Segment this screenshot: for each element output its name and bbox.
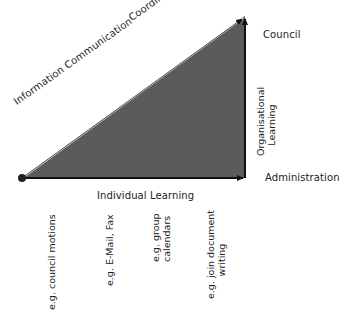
example-label-email-fax: e.g. E-Mail, Fax: [104, 222, 115, 286]
axis-label-organisational-line1: Organisational: [255, 94, 266, 156]
example-line: e.g. E-Mail, Fax: [104, 222, 115, 286]
axis-label-organisational-learning: Organisational Learning: [255, 94, 277, 156]
learning-triangle-diagram: Information Communication Coordination/C…: [0, 0, 345, 320]
example-line: e.g. group: [150, 222, 161, 262]
level-label-administration: Administration: [265, 172, 340, 183]
axis-label-organisational-line2: Learning: [266, 94, 277, 156]
example-label-group-calendars: e.g. group calendars: [150, 222, 172, 262]
origin-dot-icon: [18, 174, 26, 182]
example-line: calendars: [161, 222, 172, 262]
example-line: e.g. join document: [205, 221, 216, 299]
example-line: e.g. council motions: [46, 222, 57, 310]
axis-label-individual-learning: Individual Learning: [97, 190, 194, 201]
example-label-join-document-writing: e.g. join document writing: [205, 221, 227, 299]
example-label-council-motions: e.g. council motions: [46, 222, 57, 310]
example-line: writing: [216, 221, 227, 299]
level-label-council: Council: [263, 29, 301, 40]
